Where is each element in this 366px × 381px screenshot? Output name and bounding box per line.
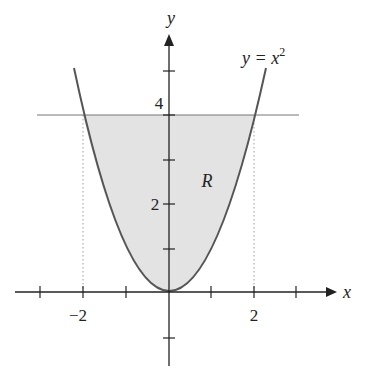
x-tick-label-neg2: −2: [69, 306, 87, 325]
chart-canvas: −2 2 2 4 y x y = x2 R: [0, 0, 366, 381]
x-axis-label: x: [342, 282, 351, 302]
x-tick-label-2: 2: [250, 306, 259, 325]
curve-label: y = x2: [240, 45, 285, 68]
y-tick-label-4: 4: [155, 94, 164, 113]
y-axis-label: y: [165, 8, 175, 28]
y-tick-label-2: 2: [151, 195, 160, 214]
x-axis-arrow-icon: [326, 287, 337, 297]
region-label: R: [201, 171, 213, 191]
y-axis-arrow-icon: [164, 34, 174, 46]
